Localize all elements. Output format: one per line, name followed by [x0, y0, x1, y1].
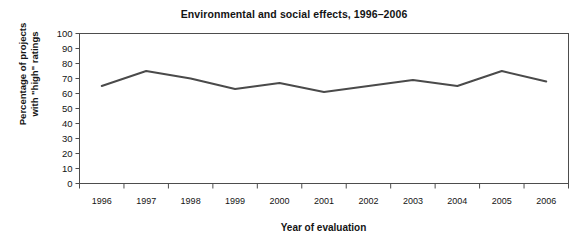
x-axis-tick-label: 1997	[124, 196, 168, 206]
x-axis-tick-label: 1998	[169, 196, 213, 206]
x-axis-tick-label: 1996	[80, 196, 124, 206]
x-axis-tick-label: 2002	[346, 196, 390, 206]
y-axis-ticks	[76, 34, 80, 184]
x-axis-tick-label: 2004	[435, 196, 479, 206]
x-axis-tick-label: 2005	[480, 196, 524, 206]
x-axis-tick-label: 2000	[258, 196, 302, 206]
chart-container: Environmental and social effects, 1996–2…	[0, 0, 588, 247]
plot-border	[80, 34, 569, 184]
plot-frame	[80, 34, 569, 184]
x-axis-tick-label: 1999	[213, 196, 257, 206]
x-axis-ticks	[80, 184, 569, 189]
x-axis-tick-label: 2003	[391, 196, 435, 206]
plot-area	[0, 0, 588, 247]
x-axis-title: Year of evaluation	[79, 222, 568, 233]
data-line-percentage-high-ratings	[102, 71, 547, 92]
x-axis-tick-label: 2001	[302, 196, 346, 206]
x-axis-tick-label: 2006	[524, 196, 568, 206]
data-series-group	[102, 71, 547, 92]
